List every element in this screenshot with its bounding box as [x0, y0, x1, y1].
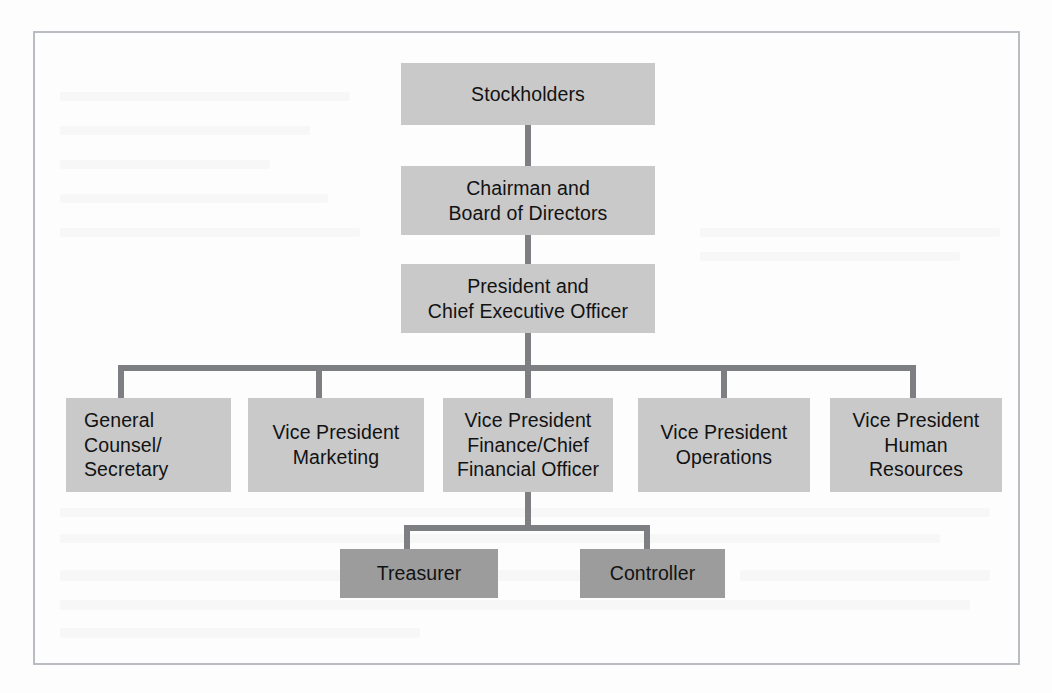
- node-vp-marketing-label: Vice President Marketing: [267, 420, 406, 470]
- node-general-counsel-secretary[interactable]: General Counsel/ Secretary: [66, 398, 231, 492]
- node-vp-human-resources[interactable]: Vice President Human Resources: [830, 398, 1002, 492]
- node-vp-human-resources-label: Vice President Human Resources: [847, 408, 986, 483]
- connector-drop-vp-marketing: [316, 365, 322, 398]
- connector-drop-vp-finance: [525, 365, 531, 398]
- node-controller[interactable]: Controller: [580, 549, 725, 598]
- node-treasurer[interactable]: Treasurer: [340, 549, 498, 598]
- org-chart-page: Stockholders Chairman and Board of Direc…: [0, 0, 1052, 693]
- connector-stockholders-to-chairman: [525, 125, 531, 166]
- node-president-and-ceo-label: President and Chief Executive Officer: [422, 274, 634, 324]
- connector-drop-vp-human-resources: [910, 365, 916, 398]
- node-vp-finance-cfo[interactable]: Vice President Finance/Chief Financial O…: [443, 398, 613, 492]
- node-stockholders-label: Stockholders: [465, 82, 591, 107]
- node-president-and-ceo[interactable]: President and Chief Executive Officer: [401, 264, 655, 333]
- node-general-counsel-secretary-label: General Counsel/ Secretary: [66, 408, 174, 483]
- connector-drop-vp-operations: [721, 365, 727, 398]
- node-vp-finance-cfo-label: Vice President Finance/Chief Financial O…: [451, 408, 605, 483]
- node-stockholders[interactable]: Stockholders: [401, 63, 655, 125]
- node-chairman-and-board-of-directors[interactable]: Chairman and Board of Directors: [401, 166, 655, 235]
- node-vp-operations-label: Vice President Operations: [655, 420, 794, 470]
- node-vp-marketing[interactable]: Vice President Marketing: [248, 398, 424, 492]
- connector-vp-horizontal-bus: [118, 365, 916, 371]
- node-vp-operations[interactable]: Vice President Operations: [638, 398, 810, 492]
- node-treasurer-label: Treasurer: [371, 561, 468, 586]
- connector-drop-general-counsel: [118, 365, 124, 398]
- connector-chairman-to-president: [525, 235, 531, 264]
- connector-drop-treasurer: [404, 525, 410, 549]
- connector-cfo-horizontal-bus: [404, 525, 650, 531]
- node-controller-label: Controller: [604, 561, 702, 586]
- connector-cfo-stem: [525, 492, 531, 528]
- connector-drop-controller: [644, 525, 650, 549]
- node-chairman-and-board-of-directors-label: Chairman and Board of Directors: [443, 176, 614, 226]
